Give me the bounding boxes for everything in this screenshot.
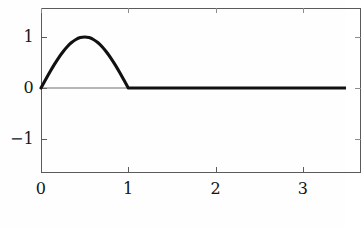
y-axis-tick-mark-right [355,88,361,89]
y-axis-tick-mark-right [355,139,361,140]
y-axis-tick-mark-right [355,37,361,38]
series-line-half-sine-pulse [41,37,346,88]
